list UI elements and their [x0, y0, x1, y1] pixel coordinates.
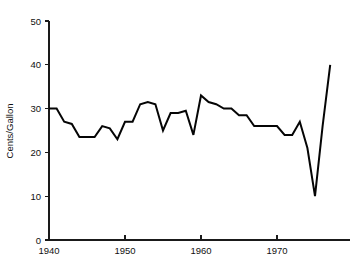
y-tick-label: 50	[30, 16, 41, 27]
x-tick-label: 1950	[114, 245, 135, 256]
y-tick-label: 30	[30, 103, 41, 114]
x-tick-label: 1940	[38, 245, 59, 256]
y-axis-ticks: 01020304050	[30, 16, 49, 246]
data-line-cents-per-gallon	[49, 65, 330, 196]
line-chart: 01020304050 1940195019601970 Cents/Gallo…	[0, 0, 356, 272]
x-tick-label: 1970	[266, 245, 287, 256]
y-tick-label: 0	[36, 235, 41, 246]
plot-area: 01020304050 1940195019601970	[30, 16, 350, 257]
chart-container: 01020304050 1940195019601970 Cents/Gallo…	[0, 0, 356, 272]
x-axis-ticks: 1940195019601970	[38, 235, 287, 256]
y-tick-label: 40	[30, 59, 41, 70]
y-tick-label: 10	[30, 191, 41, 202]
y-axis-title: Cents/Gallon	[4, 104, 15, 159]
y-tick-label: 20	[30, 147, 41, 158]
x-tick-label: 1960	[190, 245, 211, 256]
